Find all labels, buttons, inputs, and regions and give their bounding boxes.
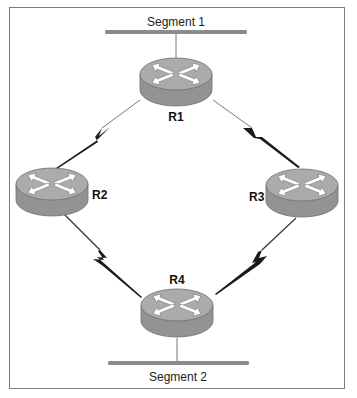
link-r1-r3 [213,100,300,168]
segment-1-label: Segment 1 [147,15,205,29]
router-r4[interactable]: R4 [141,273,213,337]
router-r1[interactable]: R1 [140,58,212,124]
link-r2-r4 [62,212,142,298]
router-r2-label: R2 [92,188,108,202]
segment-1-bar [105,30,247,34]
router-r3-label: R3 [249,190,265,204]
segment-2: Segment 2 [108,338,249,384]
router-icon [141,289,213,337]
router-icon [16,168,88,216]
router-r1-label: R1 [168,110,184,124]
network-diagram: Segment 1 R1 R2 R3 R4 [0,0,357,398]
router-r2[interactable]: R2 [16,168,108,216]
segment-1: Segment 1 [105,15,247,58]
router-icon [266,169,338,217]
router-icon [140,58,212,106]
link-r1-r2 [53,100,140,171]
router-r4-label: R4 [169,273,185,287]
router-r3[interactable]: R3 [249,169,338,217]
segment-2-bar [108,361,249,365]
link-r3-r4 [215,218,296,295]
segment-2-label: Segment 2 [149,370,207,384]
